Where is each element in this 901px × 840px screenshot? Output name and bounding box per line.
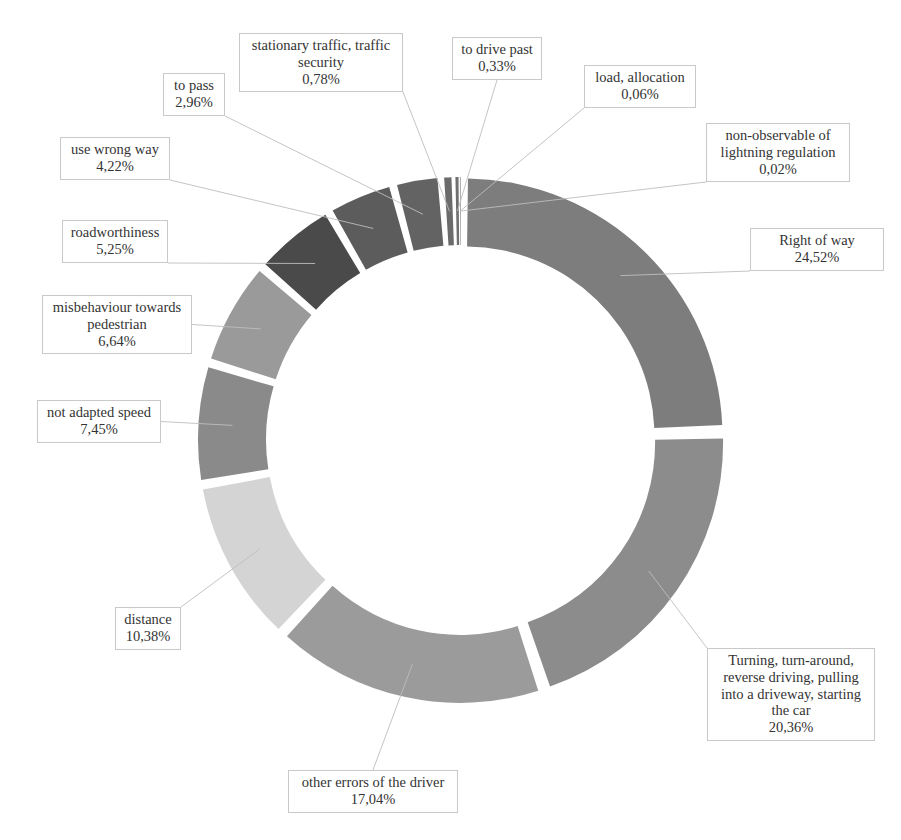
slice-percent: 0,33% (459, 58, 535, 75)
slice-callout: Right of way24,52% (750, 228, 884, 271)
slice-callout: non-observable of lightning regulation0,… (706, 123, 850, 182)
doughnut-chart: Right of way24,52%Turning, turn-around, … (0, 0, 901, 840)
slice-callout: to pass2,96% (163, 73, 225, 116)
slice-callout: other errors of the driver17,04% (288, 770, 458, 813)
slice-label: stationary traffic, traffic security (246, 37, 396, 71)
slice-label: Right of way (757, 232, 877, 249)
slice-percent: 0,02% (713, 161, 843, 178)
slice-percent: 0,78% (246, 71, 396, 88)
slice-layer (198, 177, 723, 703)
pie-slice (287, 586, 538, 703)
slice-callout: roadworthiness5,25% (62, 220, 168, 263)
slice-percent: 2,96% (170, 94, 218, 111)
pie-slice (528, 439, 723, 687)
slice-label: load, allocation (591, 69, 689, 86)
slice-percent: 7,45% (44, 421, 154, 438)
leader-line (225, 116, 423, 214)
slice-callout: Turning, turn-around, reverse driving, p… (707, 648, 875, 741)
slice-percent: 10,38% (122, 628, 174, 645)
slice-callout: stationary traffic, traffic security0,78… (239, 33, 403, 92)
slice-percent: 20,36% (714, 719, 868, 736)
slice-label: other errors of the driver (295, 774, 451, 791)
slice-callout: use wrong way4,22% (60, 137, 170, 180)
slice-callout: load, allocation0,06% (584, 65, 696, 108)
slice-callout: not adapted speed7,45% (37, 400, 161, 443)
leader-line (170, 180, 373, 228)
slice-label: use wrong way (67, 141, 163, 158)
slice-label: to pass (170, 77, 218, 94)
slice-label: not adapted speed (44, 404, 154, 421)
slice-label: misbehaviour towards pedestrian (49, 299, 185, 333)
pie-slice (455, 177, 459, 245)
slice-label: Turning, turn-around, reverse driving, p… (714, 652, 868, 719)
slice-percent: 0,06% (591, 86, 689, 103)
slice-percent: 5,25% (69, 241, 161, 258)
slice-percent: 6,64% (49, 333, 185, 350)
slice-label: non-observable of lightning regulation (713, 127, 843, 161)
slice-callout: misbehaviour towards pedestrian6,64% (42, 295, 192, 354)
slice-callout: to drive past0,33% (452, 37, 542, 80)
slice-callout: distance10,38% (115, 607, 181, 650)
slice-label: distance (122, 611, 174, 628)
pie-slice (198, 367, 274, 480)
slice-label: roadworthiness (69, 224, 161, 241)
slice-percent: 24,52% (757, 249, 877, 266)
pie-slice (203, 477, 325, 629)
slice-percent: 4,22% (67, 158, 163, 175)
slice-label: to drive past (459, 41, 535, 58)
slice-percent: 17,04% (295, 791, 451, 808)
pie-slice (467, 178, 722, 428)
